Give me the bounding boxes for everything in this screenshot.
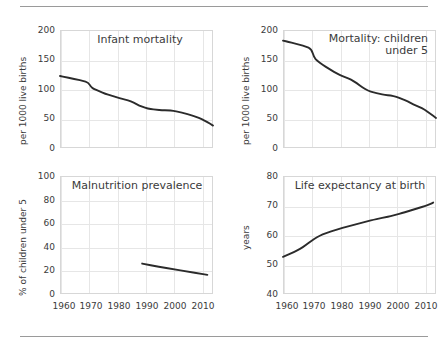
top-divider-rule	[20, 6, 428, 7]
y-tick-label: 80	[24, 196, 55, 205]
y-tick-label: 60	[24, 219, 55, 228]
y-tick-label: 50	[247, 114, 278, 123]
y-axis-label-infant-mortality: per 1000 live births	[18, 57, 28, 145]
y-tick-label: 150	[247, 55, 278, 64]
y-tick-label: 40	[247, 290, 278, 299]
series-line-under5-mortality	[283, 30, 436, 148]
series-line-infant-mortality	[60, 30, 213, 148]
y-tick-label: 60	[247, 231, 278, 240]
y-tick-label: 80	[247, 172, 278, 181]
y-tick-label: 100	[24, 172, 55, 181]
y-tick-label: 0	[24, 290, 55, 299]
y-axis-label-under5-mortality: per 1000 live births	[241, 57, 251, 145]
y-tick-label: 50	[24, 114, 55, 123]
bottom-divider-rule	[20, 336, 428, 337]
y-tick-label: 100	[24, 85, 55, 94]
y-tick-label: 20	[24, 266, 55, 275]
x-tick-label: 2010	[409, 302, 443, 311]
y-tick-label: 40	[24, 243, 55, 252]
y-tick-label: 200	[247, 26, 278, 35]
y-tick-label: 150	[24, 55, 55, 64]
y-tick-label: 0	[24, 144, 55, 153]
y-tick-label: 70	[247, 201, 278, 210]
x-tick-label: 2010	[186, 302, 220, 311]
series-line-life-expectancy	[283, 176, 436, 294]
y-tick-label: 0	[247, 144, 278, 153]
y-tick-label: 200	[24, 26, 55, 35]
series-line-malnutrition	[60, 176, 213, 294]
y-tick-label: 100	[247, 85, 278, 94]
y-tick-label: 50	[247, 260, 278, 269]
